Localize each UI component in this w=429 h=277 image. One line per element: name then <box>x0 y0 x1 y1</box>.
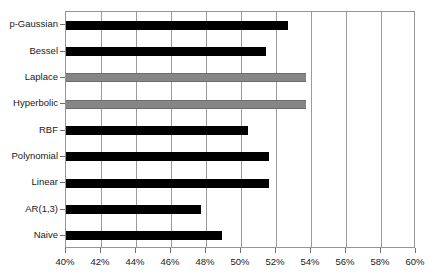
bar-row <box>66 65 414 91</box>
x-axis-label: 52% <box>255 256 295 267</box>
x-axis-label: 54% <box>290 256 330 267</box>
bar-row <box>66 196 414 222</box>
y-axis-category-labels: p-GaussianBesselLaplaceHyperbolicRBFPoly… <box>0 11 62 248</box>
bar-row <box>66 144 414 170</box>
y-axis-label: Bessel <box>0 46 58 56</box>
bar-row <box>66 223 414 249</box>
x-axis-tick <box>310 248 311 253</box>
bar <box>66 205 201 214</box>
bar <box>66 73 306 82</box>
bar <box>66 152 269 161</box>
y-axis-label: Hyperbolic <box>0 98 58 108</box>
x-axis-label: 46% <box>150 256 190 267</box>
x-axis-tick <box>275 248 276 253</box>
bar-chart: p-GaussianBesselLaplaceHyperbolicRBFPoly… <box>0 0 429 277</box>
x-axis: 40%42%44%46%48%50%52%54%56%58%60% <box>65 248 415 277</box>
bar-row <box>66 91 414 117</box>
y-axis-label: AR(1,3) <box>0 204 58 214</box>
y-axis-label: Linear <box>0 177 58 187</box>
x-axis-tick <box>240 248 241 253</box>
y-axis-label: p-Gaussian <box>0 19 58 29</box>
x-axis-tick <box>65 248 66 253</box>
y-axis-label: Naive <box>0 230 58 240</box>
x-axis-label: 48% <box>185 256 225 267</box>
bar <box>66 231 222 240</box>
bar <box>66 21 288 30</box>
x-axis-tick <box>205 248 206 253</box>
bar-row <box>66 170 414 196</box>
y-axis-label: Laplace <box>0 72 58 82</box>
x-axis-label: 58% <box>360 256 400 267</box>
x-axis-tick <box>415 248 416 253</box>
x-axis-tick <box>100 248 101 253</box>
y-axis-label: RBF <box>0 125 58 135</box>
x-axis-label: 44% <box>115 256 155 267</box>
x-axis-label: 42% <box>80 256 120 267</box>
x-axis-tick <box>135 248 136 253</box>
x-axis-label: 60% <box>395 256 429 267</box>
plot-area <box>65 11 415 248</box>
bar-row <box>66 38 414 64</box>
x-axis-label: 56% <box>325 256 365 267</box>
bar <box>66 100 306 109</box>
x-axis-label: 40% <box>45 256 85 267</box>
bar <box>66 179 269 188</box>
x-axis-tick <box>345 248 346 253</box>
bar-row <box>66 117 414 143</box>
y-axis-label: Polynomial <box>0 151 58 161</box>
x-axis-tick <box>380 248 381 253</box>
bar <box>66 47 266 56</box>
bar <box>66 126 248 135</box>
x-axis-tick <box>170 248 171 253</box>
bar-row <box>66 12 414 38</box>
x-axis-label: 50% <box>220 256 260 267</box>
